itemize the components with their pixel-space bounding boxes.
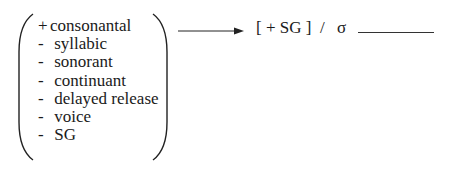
feature-row: - SG [38,126,159,144]
syllable-symbol: σ [337,18,346,38]
feature-sign: - [38,35,50,53]
output-feature: [ + SG ] [256,18,311,38]
feature-row: - delayed release [38,90,159,108]
feature-sign: - [38,108,50,126]
feature-sign: - [38,90,50,108]
feature-name: sonorant [54,52,113,71]
feature-sign: - [38,72,50,90]
right-arrow-icon [178,26,244,36]
feature-sign: + [38,17,50,35]
feature-name: voice [54,107,91,126]
feature-row: - continuant [38,72,159,90]
environment-slash: / [320,18,325,38]
feature-name: SG [54,125,76,144]
focus-position-blank [358,32,434,33]
feature-name: syllabic [54,34,107,53]
feature-name: continuant [54,71,126,90]
feature-row: - voice [38,108,159,126]
feature-row: - syllabic [38,35,159,53]
feature-name: consonantal [50,16,131,35]
feature-row: - sonorant [38,53,159,71]
right-parenthesis [148,12,170,162]
feature-matrix: +consonantal - syllabic - sonorant - con… [38,17,159,144]
feature-sign: - [38,53,50,71]
left-parenthesis [16,12,38,162]
feature-name: delayed release [54,89,158,108]
feature-sign: - [38,126,50,144]
feature-row: +consonantal [38,17,159,35]
